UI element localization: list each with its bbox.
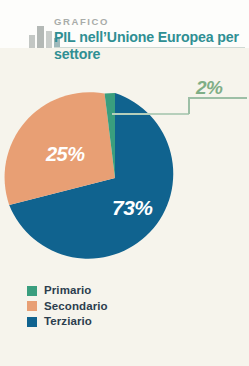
legend-swatch-terziario	[27, 317, 37, 327]
pie-label-terziario: 73%	[112, 196, 153, 220]
legend-swatch-secondario	[27, 301, 37, 311]
legend-label-primario: Primario	[44, 285, 91, 297]
legend-label-secondario: Secondario	[44, 301, 108, 313]
legend-label-terziario: Terziario	[44, 316, 92, 328]
pie-label-primario-callout: 2%	[196, 77, 222, 99]
callout-leader-line-vertical	[188, 97, 190, 114]
callout-leader-line-inner	[112, 113, 189, 115]
legend-item-terziario: Terziario	[27, 314, 108, 330]
chart-legend: Primario Secondario Terziario	[27, 283, 108, 330]
legend-swatch-primario	[27, 286, 37, 296]
chart-infographic: GRAFICO PIL nell’Unione Europea per sett…	[0, 0, 249, 366]
pie-label-secondario: 25%	[46, 143, 85, 166]
legend-item-primario: Primario	[27, 283, 108, 299]
legend-item-secondario: Secondario	[27, 299, 108, 315]
